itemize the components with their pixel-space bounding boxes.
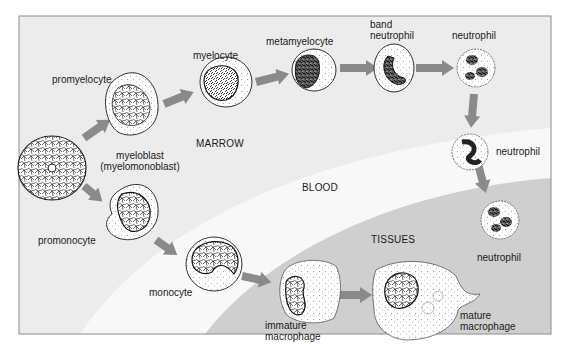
region-label-tissues: TISSUES [371, 234, 415, 245]
label-myeloblast-line1: myeloblast [90, 150, 190, 161]
cell-band-neutrophil [374, 44, 414, 92]
label-mature-macrophage-line1: mature [460, 310, 516, 321]
label-neutrophil-blood: neutrophil [496, 146, 540, 157]
label-promyelocyte: promyelocyte [52, 74, 111, 85]
label-neutrophil-marrow: neutrophil [452, 30, 496, 41]
cell-promyelocyte [105, 73, 158, 135]
label-myeloblast: myeloblast (myelomonoblast) [90, 150, 190, 172]
region-label-marrow: MARROW [196, 138, 244, 149]
cell-neutrophil-marrow [457, 49, 495, 87]
label-immature-macrophage-line1: immature [265, 320, 321, 331]
label-band-neutrophil-line2: neutrophil [370, 30, 414, 41]
label-immature-macrophage: immature macrophage [265, 320, 321, 342]
cell-myelocyte [200, 57, 252, 107]
cell-monocyte [186, 237, 242, 291]
cell-myeloblast [18, 136, 86, 200]
label-promonocyte: promonocyte [38, 235, 96, 246]
label-mature-macrophage: mature macrophage [460, 310, 516, 332]
label-neutrophil-tissue: neutrophil [477, 252, 521, 263]
label-myelocyte: myelocyte [193, 50, 238, 61]
label-myeloblast-line2: (myelomonoblast) [90, 161, 190, 172]
label-monocyte: monocyte [149, 287, 192, 298]
cell-metamyelocyte [292, 49, 336, 91]
cell-immature-macrophage [280, 260, 341, 323]
label-band-neutrophil-line1: band [370, 19, 414, 30]
cell-neutrophil-tissue [481, 201, 519, 239]
label-mature-macrophage-line2: macrophage [460, 321, 516, 332]
hematopoiesis-diagram: MARROW BLOOD TISSUES promyelocyte myelob… [0, 0, 568, 364]
label-metamyelocyte: metamyelocyte [266, 36, 333, 47]
label-immature-macrophage-line2: macrophage [265, 331, 321, 342]
label-band-neutrophil: band neutrophil [370, 19, 414, 41]
region-label-blood: BLOOD [302, 182, 338, 193]
cell-neutrophil-blood [452, 134, 488, 170]
